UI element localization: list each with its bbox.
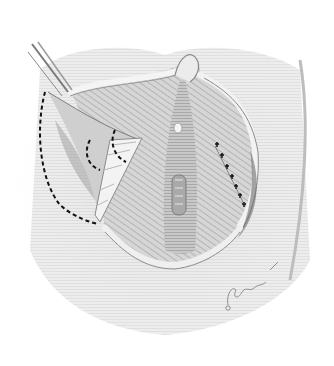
surgical-illustration [0,0,334,366]
illustration-svg [0,0,334,366]
